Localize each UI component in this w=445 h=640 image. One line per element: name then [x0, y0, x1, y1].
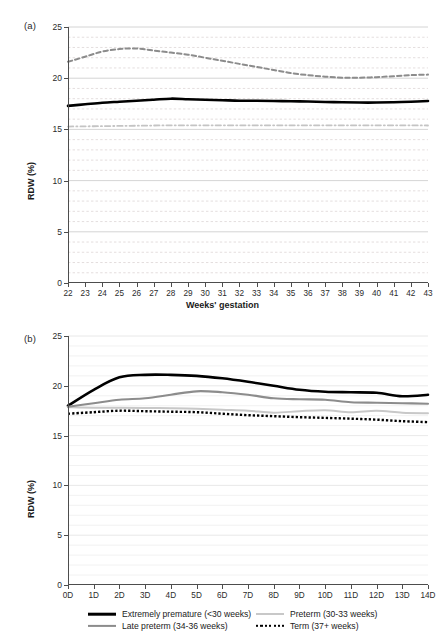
y-tick-mark — [64, 129, 68, 130]
y-tick-label: 20 — [36, 73, 62, 83]
y-tick-mark — [64, 436, 68, 437]
x-tick-mark — [154, 283, 155, 287]
panel-a-x-axis-label: Weeks' gestation — [0, 300, 445, 310]
series-line — [68, 375, 428, 406]
x-tick-mark — [291, 283, 292, 287]
x-tick-label: 33 — [252, 289, 261, 298]
x-tick-label: 38 — [338, 289, 347, 298]
x-tick-mark — [145, 585, 146, 589]
x-tick-label: 5D — [191, 591, 201, 600]
x-tick-mark — [239, 283, 240, 287]
x-tick-mark — [325, 585, 326, 589]
x-tick-label: 42 — [406, 289, 415, 298]
y-tick-mark — [64, 386, 68, 387]
x-tick-mark — [428, 283, 429, 287]
y-tick-mark — [64, 27, 68, 28]
y-tick-label: 5 — [36, 530, 62, 540]
panel-a-y-axis — [68, 27, 69, 283]
series-line — [68, 125, 428, 126]
x-tick-label: 2D — [114, 591, 124, 600]
legend-item[interactable]: Extremely premature (<30 weeks) — [88, 608, 256, 620]
x-tick-mark — [171, 283, 172, 287]
legend-swatch-icon — [88, 609, 116, 619]
x-tick-mark — [274, 585, 275, 589]
legend-label: Preterm (30-33 weeks) — [290, 608, 377, 620]
series-line — [68, 411, 428, 422]
x-tick-label: 34 — [269, 289, 278, 298]
panel-b-y-axis — [68, 336, 69, 585]
x-tick-mark — [342, 283, 343, 287]
x-tick-mark — [222, 283, 223, 287]
x-tick-mark — [274, 283, 275, 287]
x-tick-mark — [325, 283, 326, 287]
y-tick-mark — [64, 181, 68, 182]
legend-row: Late preterm (34-36 weeks)Term (37+ week… — [88, 620, 418, 632]
x-tick-label: 41 — [389, 289, 398, 298]
x-tick-label: 13D — [395, 591, 410, 600]
y-tick-mark — [64, 485, 68, 486]
x-tick-label: 0D — [63, 591, 73, 600]
x-tick-label: 37 — [321, 289, 330, 298]
legend-swatch-icon — [88, 621, 116, 631]
x-tick-mark — [428, 585, 429, 589]
legend-label: Late preterm (34-36 weeks) — [122, 620, 228, 632]
x-tick-label: 3D — [140, 591, 150, 600]
x-tick-mark — [394, 283, 395, 287]
legend-item[interactable]: Late preterm (34-36 weeks) — [88, 620, 256, 632]
panel-a: (a) RDW (%) 0510152025222324252627282930… — [0, 0, 445, 318]
x-tick-mark — [85, 283, 86, 287]
x-tick-mark — [119, 283, 120, 287]
y-tick-label: 25 — [36, 331, 62, 341]
x-tick-mark — [102, 283, 103, 287]
x-tick-mark — [351, 585, 352, 589]
x-tick-mark — [94, 585, 95, 589]
y-tick-label: 15 — [36, 124, 62, 134]
x-tick-label: 23 — [81, 289, 90, 298]
x-tick-label: 7D — [243, 591, 253, 600]
x-tick-label: 29 — [183, 289, 192, 298]
panel-a-plot-area: 0510152025222324252627282930313233343536… — [68, 27, 428, 283]
y-tick-label: 15 — [36, 431, 62, 441]
panel-b-canvas — [68, 336, 428, 585]
y-tick-mark — [64, 232, 68, 233]
legend-row: Extremely premature (<30 weeks)Preterm (… — [88, 608, 418, 620]
y-tick-mark — [64, 78, 68, 79]
y-tick-label: 20 — [36, 381, 62, 391]
x-tick-label: 9D — [294, 591, 304, 600]
x-tick-mark — [402, 585, 403, 589]
x-tick-mark — [137, 283, 138, 287]
x-tick-mark — [377, 585, 378, 589]
legend-item[interactable]: Term (37+ weeks) — [256, 620, 359, 632]
x-tick-mark — [411, 283, 412, 287]
panel-a-y-axis-label: RDW (%) — [26, 162, 36, 200]
x-tick-mark — [308, 283, 309, 287]
x-tick-label: 24 — [98, 289, 107, 298]
figure-rdw-reference-curves: (a) RDW (%) 0510152025222324252627282930… — [0, 0, 445, 640]
x-tick-label: 31 — [218, 289, 227, 298]
x-tick-label: 26 — [132, 289, 141, 298]
series-line — [68, 99, 428, 106]
series-line — [68, 48, 428, 77]
series-line — [68, 407, 428, 413]
panel-a-x-axis — [68, 282, 428, 283]
x-tick-label: 4D — [166, 591, 176, 600]
x-tick-mark — [248, 585, 249, 589]
x-tick-label: 6D — [217, 591, 227, 600]
x-tick-label: 30 — [201, 289, 210, 298]
panel-b: (b) RDW (%) 05101520250D1D2D3D4D5D6D7D8D… — [0, 318, 445, 640]
x-tick-mark — [299, 585, 300, 589]
panel-b-plot-area: 05101520250D1D2D3D4D5D6D7D8D9D10D11D12D1… — [68, 336, 428, 585]
x-tick-label: 12D — [369, 591, 384, 600]
legend-item[interactable]: Preterm (30-33 weeks) — [256, 608, 377, 620]
x-tick-label: 10D — [318, 591, 333, 600]
legend-swatch-icon — [256, 609, 284, 619]
x-tick-mark — [171, 585, 172, 589]
x-tick-label: 40 — [372, 289, 381, 298]
x-tick-mark — [188, 283, 189, 287]
x-tick-label: 32 — [235, 289, 244, 298]
panel-b-y-axis-label: RDW (%) — [26, 480, 36, 518]
x-tick-label: 22 — [63, 289, 72, 298]
x-tick-mark — [68, 283, 69, 287]
x-tick-label: 27 — [149, 289, 158, 298]
y-tick-label: 0 — [36, 580, 62, 590]
